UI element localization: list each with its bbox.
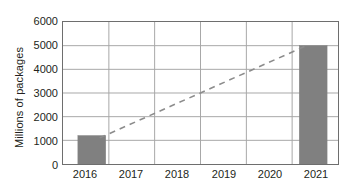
bar-chart: Millions of packages 6000 5000 4000 3000…	[0, 0, 354, 195]
x-tick-label-2019: 2019	[212, 168, 236, 181]
x-tick-label-2018: 2018	[165, 168, 189, 181]
y-tick-label-1000: 1000	[24, 136, 58, 147]
x-tick-label-2017: 2017	[119, 168, 143, 181]
trend-line-series	[100, 46, 306, 138]
bar-series	[78, 46, 327, 164]
trend-line	[100, 46, 306, 138]
y-tick-label-0: 0	[24, 160, 58, 171]
bar-2021	[299, 46, 327, 164]
x-tick-label-2021: 2021	[304, 168, 328, 181]
bar-2016	[78, 136, 106, 164]
y-tick-label-3000: 3000	[24, 88, 58, 99]
y-tick-label-2000: 2000	[24, 112, 58, 123]
plot-svg	[63, 22, 338, 164]
x-tick-label-2016: 2016	[73, 168, 97, 181]
y-tick-label-4000: 4000	[24, 64, 58, 75]
x-tick-label-2020: 2020	[258, 168, 282, 181]
plot-area	[62, 21, 339, 165]
y-tick-label-6000: 6000	[24, 16, 58, 27]
y-axis-tick-labels: 6000 5000 4000 3000 2000 1000 0	[24, 0, 58, 195]
x-axis-tick-labels: 2016 2017 2018 2019 2020 2021	[62, 168, 339, 188]
y-tick-label-5000: 5000	[24, 40, 58, 51]
